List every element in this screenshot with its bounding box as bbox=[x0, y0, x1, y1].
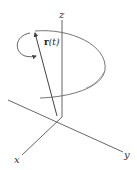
rotation-arrow-icon bbox=[17, 33, 36, 57]
y-axis bbox=[8, 100, 123, 152]
x-axis-label: x bbox=[14, 154, 20, 165]
z-axis-label: z bbox=[58, 9, 65, 20]
vector-function-diagram: z y x r(t) bbox=[0, 0, 137, 170]
vector-label-arg: (t) bbox=[49, 37, 60, 47]
y-axis-label: y bbox=[123, 149, 130, 160]
vector-label: r(t) bbox=[44, 37, 60, 47]
x-axis bbox=[22, 117, 62, 155]
curve-tail bbox=[86, 72, 104, 88]
